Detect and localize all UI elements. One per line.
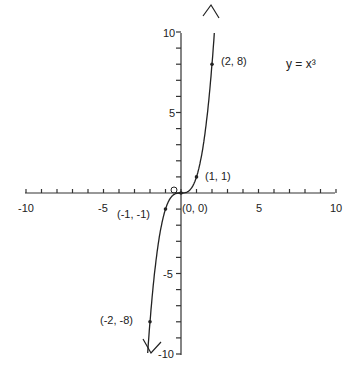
point-label-1-1: (1, 1) bbox=[205, 170, 231, 182]
data-point bbox=[164, 207, 168, 211]
equation-label: y = x³ bbox=[286, 57, 316, 71]
point-label-neg2-neg8: (-2, -8) bbox=[100, 314, 133, 326]
data-point bbox=[148, 320, 152, 324]
point-label-2-8: (2, 8) bbox=[221, 55, 247, 67]
point-label-neg1-neg1: (-1, -1) bbox=[117, 208, 150, 220]
x-tick-label-5: 5 bbox=[256, 202, 262, 214]
data-point bbox=[210, 62, 214, 66]
y-tick-label-neg5: -5 bbox=[163, 268, 173, 280]
x-tick-label-10: 10 bbox=[330, 202, 342, 214]
point-label-0-0: (0, 0) bbox=[182, 202, 208, 214]
data-point bbox=[195, 175, 199, 179]
y-tick-label-10: 10 bbox=[163, 27, 175, 39]
origin-marker bbox=[171, 187, 177, 193]
arrow-up-icon bbox=[203, 5, 219, 18]
x-tick-label-neg5: -5 bbox=[98, 202, 108, 214]
data-point bbox=[179, 191, 183, 195]
y-tick-label-neg10: -10 bbox=[158, 348, 174, 360]
x-tick-label-neg10: -10 bbox=[18, 202, 34, 214]
y-tick-label-5: 5 bbox=[169, 107, 175, 119]
cubic-function-graph: -10 -5 5 10 10 5 -5 -10 (2, 8) (1, 1) (0… bbox=[0, 0, 357, 376]
